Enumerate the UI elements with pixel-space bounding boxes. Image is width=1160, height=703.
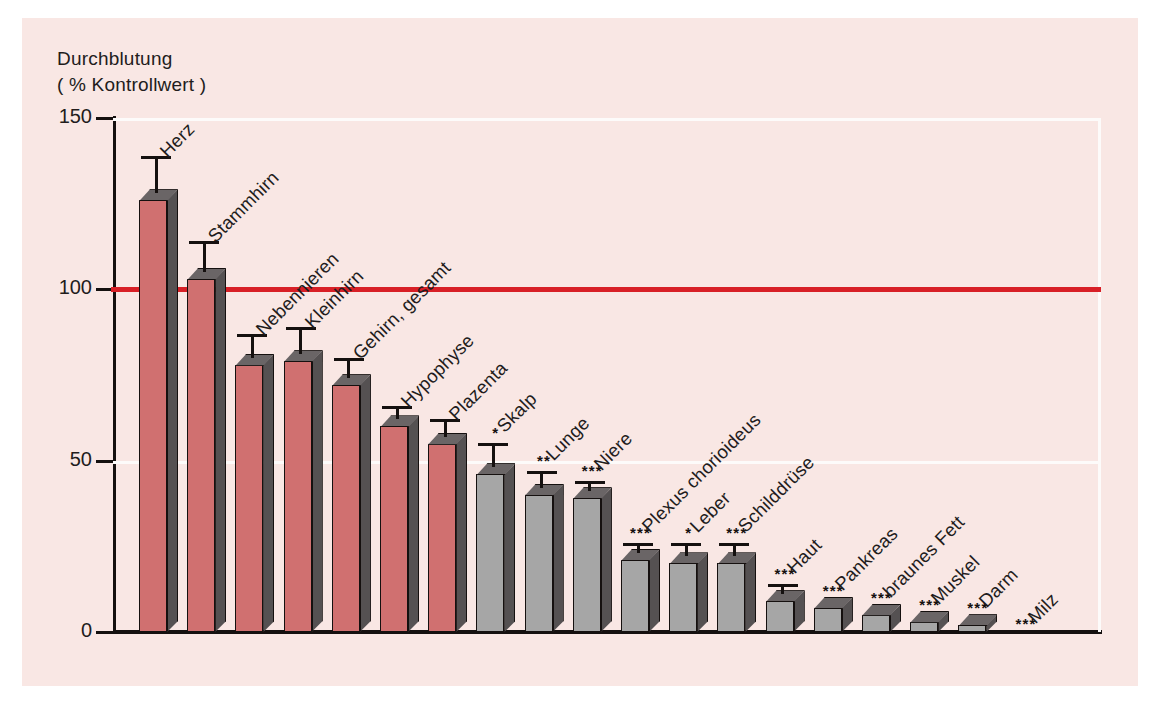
bar-lunge xyxy=(525,118,564,632)
y-tick-label-0: 0 xyxy=(26,619,92,642)
error-bar-stem xyxy=(781,584,784,594)
y-tick-150 xyxy=(96,117,113,120)
bar-front-face xyxy=(862,615,890,632)
bar-front-face xyxy=(235,365,263,632)
bar-niere xyxy=(573,118,612,632)
bar-hypophyse xyxy=(380,118,419,632)
bar-side-face xyxy=(215,268,226,632)
y-tick-label-150: 150 xyxy=(26,105,92,128)
bar-side-face xyxy=(697,552,708,632)
bar-front-face xyxy=(958,625,986,632)
bar-side-face xyxy=(456,433,467,632)
error-bar xyxy=(575,481,605,491)
y-tick-50 xyxy=(96,460,113,463)
bar-front-face xyxy=(573,498,601,632)
error-bar-stem xyxy=(155,156,158,194)
bar-front-face xyxy=(669,563,697,632)
error-bar xyxy=(430,419,460,436)
bar-front-face xyxy=(380,426,408,632)
bar-side-face xyxy=(408,415,419,632)
error-bar-stem xyxy=(637,543,640,553)
error-bar xyxy=(141,156,171,194)
bar-front-face xyxy=(187,279,215,632)
bar-side-face xyxy=(649,549,660,632)
bar-front-face xyxy=(525,495,553,632)
error-bar xyxy=(768,584,798,594)
error-bar-stem xyxy=(588,481,591,491)
plot-area: ******************************* HerzStam… xyxy=(113,118,1101,632)
error-bar-stem xyxy=(444,419,447,436)
error-bar xyxy=(671,543,701,557)
bar-side-face xyxy=(553,484,564,632)
bar-side-face xyxy=(360,374,371,632)
bar-front-face xyxy=(910,622,938,632)
error-bar-stem xyxy=(299,327,302,354)
error-bar xyxy=(719,543,749,557)
error-bar-stem xyxy=(540,471,543,488)
bar-front-face xyxy=(814,608,842,632)
error-bar xyxy=(237,334,267,358)
error-bar-stem xyxy=(685,543,688,557)
bar-front-face xyxy=(139,200,167,632)
bar-stammhirn xyxy=(187,118,226,632)
bar-kleinhirn xyxy=(284,118,323,632)
error-bar-stem xyxy=(733,543,736,557)
bar-plexus-chorioideus xyxy=(621,118,660,632)
error-bar xyxy=(286,327,316,354)
error-bar xyxy=(527,471,557,488)
error-bar-stem xyxy=(347,358,350,379)
bar-herz xyxy=(139,118,178,632)
bar-side-face xyxy=(263,354,274,632)
y-axis-title-line2: ( % Kontrollwert ) xyxy=(57,74,206,96)
y-tick-0 xyxy=(96,631,113,634)
error-bar-stem xyxy=(251,334,254,358)
y-axis-title-line1: Durchblutung xyxy=(57,48,172,70)
bar-front-face xyxy=(621,560,649,632)
bar-front-face xyxy=(476,474,504,632)
plot-frame-right xyxy=(1098,118,1101,632)
y-tick-label-50: 50 xyxy=(26,448,92,471)
error-bar xyxy=(478,443,508,467)
error-bar xyxy=(334,358,364,379)
bar-side-face xyxy=(167,189,178,632)
chart-page: Durchblutung ( % Kontrollwert ) 05010015… xyxy=(0,0,1160,703)
error-bar xyxy=(189,241,219,272)
bar-front-face xyxy=(332,385,360,632)
bar-side-face xyxy=(601,487,612,632)
bar-side-face xyxy=(312,350,323,632)
y-tick-label-100: 100 xyxy=(26,276,92,299)
error-bar-stem xyxy=(492,443,495,467)
error-bar-stem xyxy=(396,406,399,420)
bar-side-face xyxy=(745,552,756,632)
bar-front-face xyxy=(284,361,312,632)
bar-front-face xyxy=(717,563,745,632)
bar-front-face xyxy=(766,601,794,632)
error-bar-stem xyxy=(203,241,206,272)
error-bar xyxy=(623,543,653,553)
bar-side-face xyxy=(504,463,515,632)
bar-front-face xyxy=(428,444,456,632)
